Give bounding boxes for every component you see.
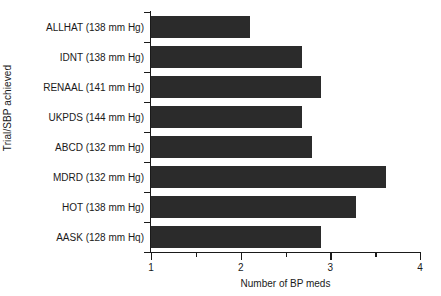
x-axis-minor-tick — [196, 253, 197, 257]
y-axis-tick — [144, 42, 150, 43]
bar — [151, 226, 321, 248]
y-axis-line — [150, 11, 151, 253]
x-axis-minor-tick — [286, 253, 287, 257]
bar — [151, 196, 356, 218]
y-axis-title: Trial/SBP achieved — [0, 0, 16, 256]
bar-row — [151, 162, 420, 192]
x-axis-tick — [330, 253, 331, 260]
bar — [151, 16, 250, 38]
y-axis-tick — [144, 222, 150, 223]
bar-row — [151, 102, 420, 132]
y-axis-tick-label: RENAAL (141 mm Hg) — [26, 72, 148, 102]
y-axis-tick-label: ALLHAT (138 mm Hg) — [26, 12, 148, 42]
y-axis-tick — [144, 252, 150, 253]
y-axis-tick — [144, 162, 150, 163]
y-axis-tick-label: AASK (128 mm Hq) — [26, 222, 148, 252]
bar-row — [151, 12, 420, 42]
bar — [151, 46, 302, 68]
bar-row — [151, 132, 420, 162]
y-axis-tick — [144, 192, 150, 193]
y-axis-tick-label: MDRD (132 mm Hg) — [26, 162, 148, 192]
y-axis-tick — [144, 72, 150, 73]
y-axis-tick-labels: ALLHAT (138 mm Hg)IDNT (138 mm Hg)RENAAL… — [26, 12, 148, 252]
y-axis-tick-label: IDNT (138 mm Hg) — [26, 42, 148, 72]
x-axis-title: Number of BP meds — [151, 278, 420, 289]
x-axis-tick — [241, 253, 242, 260]
bar-row — [151, 192, 420, 222]
bar-row — [151, 222, 420, 252]
y-axis-tick-label: HOT (138 mm Hg) — [26, 192, 148, 222]
x-axis-tick — [420, 253, 421, 260]
bar-row — [151, 72, 420, 102]
x-axis-tick-label: 3 — [328, 262, 334, 273]
y-axis-tick-label: UKPDS (144 mm Hg) — [26, 102, 148, 132]
x-axis-minor-tick — [375, 253, 376, 257]
bar-chart-figure: Trial/SBP achieved ALLHAT (138 mm Hg)IDN… — [0, 0, 441, 296]
bar — [151, 106, 302, 128]
bar — [151, 166, 386, 188]
bar — [151, 76, 321, 98]
y-axis-tick — [144, 102, 150, 103]
bars-container — [151, 12, 420, 252]
x-axis-tick — [151, 253, 152, 260]
plot-area — [151, 12, 420, 252]
x-axis-tick-label: 1 — [148, 262, 154, 273]
x-axis-tick-label: 2 — [238, 262, 244, 273]
bar-row — [151, 42, 420, 72]
x-axis-tick-label: 4 — [417, 262, 423, 273]
y-axis-tick — [144, 132, 150, 133]
y-axis-tick-label: ABCD (132 mm Hg) — [26, 132, 148, 162]
bar — [151, 136, 312, 158]
y-axis-tick — [144, 12, 150, 13]
